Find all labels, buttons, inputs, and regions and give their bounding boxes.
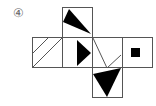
face-right1: [93, 38, 123, 68]
right2-square-shape: [131, 48, 140, 57]
bottom-triangle-shape: [93, 68, 121, 97]
left-diagonal-lines: [33, 38, 62, 67]
top-triangle-shape: [63, 9, 91, 34]
right1-v-lines: [93, 38, 121, 68]
center-triangle-shape: [77, 40, 91, 66]
cube-net-diagram: [0, 0, 156, 106]
